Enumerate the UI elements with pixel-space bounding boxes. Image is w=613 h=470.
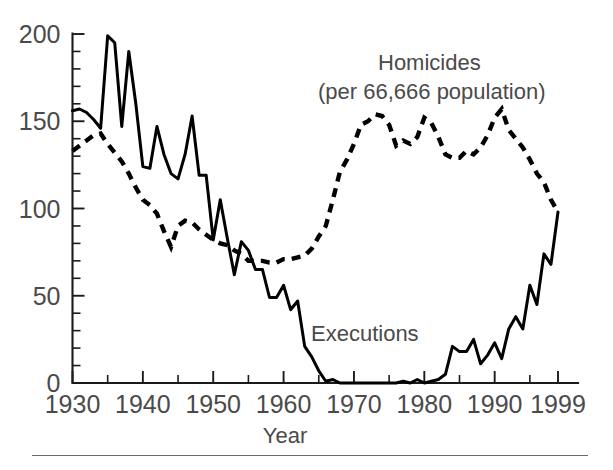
homicides-series-label-line1: Homicides (378, 50, 481, 75)
x-tick-label: 1980 (396, 390, 452, 418)
y-tick-label: 50 (33, 282, 61, 310)
x-tick-label: 1950 (185, 390, 241, 418)
x-tick-label: 1970 (326, 390, 382, 418)
y-tick-label: 100 (19, 195, 61, 223)
x-tick-label: 1999 (530, 390, 586, 418)
x-tick-label: 1960 (256, 390, 312, 418)
y-tick-label: 200 (19, 20, 61, 48)
executions-series-label: Executions (311, 321, 419, 346)
x-tick-label: 1940 (115, 390, 171, 418)
series-line-homicides (73, 109, 559, 263)
homicides-series-label-line2: (per 66,666 population) (318, 79, 546, 104)
x-tick-label: 1990 (467, 390, 523, 418)
x-tick-label: 1930 (45, 390, 101, 418)
y-tick-label: 150 (19, 107, 61, 135)
chart-figure: 0501001502001930194019501960197019801990… (0, 0, 613, 470)
chart-canvas: 0501001502001930194019501960197019801990… (0, 0, 613, 470)
x-axis-title: Year (263, 423, 307, 448)
